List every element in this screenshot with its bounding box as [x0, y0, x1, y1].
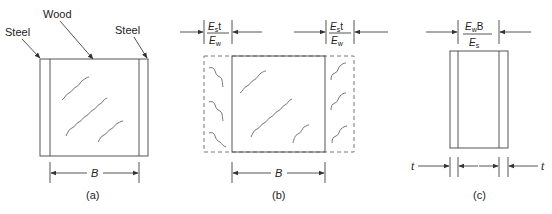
- transformed-section-diagram: Steel Wood Steel B (a) Est Ew: [0, 0, 552, 214]
- steel-label-right: Steel: [115, 24, 140, 36]
- caption-b: (b): [272, 189, 285, 201]
- left-width-fraction: Est Ew: [207, 21, 229, 47]
- panel-c: EwB Es t t (c): [411, 20, 545, 201]
- steel-label-left: Steel: [5, 26, 30, 38]
- panel-b: Est Ew Est Ew B (b): [180, 20, 388, 201]
- thickness-label-left: t: [411, 159, 415, 173]
- svg-text:Ew: Ew: [331, 35, 344, 47]
- transformed-wood-outline: [204, 56, 354, 152]
- thickness-label-right: t: [541, 159, 545, 173]
- wood-label: Wood: [43, 8, 72, 20]
- svg-text:Ew: Ew: [209, 35, 222, 47]
- wood-core-outline: [232, 56, 325, 152]
- caption-a: (a): [86, 189, 99, 201]
- steel-left-leader-arrow: [22, 39, 40, 58]
- right-width-fraction: Est Ew: [329, 21, 351, 47]
- steel-width-fraction: EwB Es: [463, 21, 492, 49]
- wood-leader-arrow: [60, 21, 93, 59]
- composite-section-outline: [40, 59, 148, 156]
- wood-grain-icon: [209, 133, 226, 147]
- caption-c: (c): [473, 189, 486, 201]
- svg-text:Est: Est: [208, 21, 221, 33]
- width-label-b: B: [275, 167, 282, 179]
- panel-a: Steel Wood Steel B (a): [5, 8, 148, 201]
- wood-grain-icon: [62, 77, 89, 100]
- svg-text:EwB: EwB: [465, 21, 484, 33]
- width-label-b: B: [91, 167, 98, 179]
- wood-grain-icon: [98, 121, 123, 142]
- wood-grain-icon: [66, 98, 107, 136]
- steel-right-leader-arrow: [134, 37, 147, 58]
- wood-grain-icon: [293, 125, 309, 143]
- wood-grain-icon: [209, 102, 223, 121]
- wood-grain-icon: [240, 71, 266, 93]
- svg-text:Es: Es: [469, 37, 480, 49]
- wood-grain-icon: [331, 93, 346, 110]
- wood-grain-icon: [331, 63, 346, 80]
- svg-text:Est: Est: [330, 21, 343, 33]
- wood-grain-icon: [332, 126, 347, 143]
- wood-grain-icon: [251, 99, 292, 137]
- wood-grain-icon: [209, 68, 223, 87]
